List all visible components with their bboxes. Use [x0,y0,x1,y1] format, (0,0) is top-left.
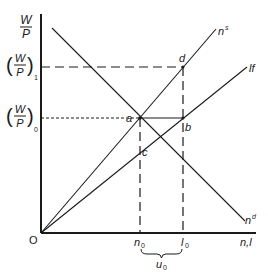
wage-1-label: ( W P ) 1 [6,52,38,81]
svg-text:): ) [27,54,34,76]
demand-curve-nd [52,28,245,221]
n0-tick-label: n 0 [134,236,145,249]
point-c-label: c [142,146,148,158]
point-b-label: b [185,121,191,133]
svg-text:d: d [252,213,257,220]
l0-tick-label: l 0 [181,236,189,249]
supply-curve-label: n s [218,24,229,37]
svg-text:n: n [218,25,224,37]
svg-text:W: W [15,52,27,64]
wage-0-label: ( W P ) 0 [6,103,38,133]
svg-text:P: P [22,27,30,41]
svg-text:W: W [15,103,27,115]
svg-text:0: 0 [185,242,189,249]
point-b-dot [182,117,185,120]
svg-text:P: P [16,66,24,78]
svg-text:(: ( [6,54,13,76]
point-d-label: d [179,52,186,64]
svg-text:0: 0 [141,242,145,249]
unemployment-brace [141,249,182,258]
point-a-label: a [126,112,132,124]
point-a-dot [138,116,142,120]
svg-text:(: ( [6,105,13,127]
svg-text:P: P [16,117,24,129]
x-axis-label: n,l [240,236,252,248]
point-d-dot [182,66,185,69]
svg-text:s: s [225,24,229,31]
svg-text:n: n [245,214,251,226]
svg-text:0: 0 [34,126,38,133]
svg-text:0: 0 [163,264,167,271]
svg-text:n: n [134,236,140,248]
brace-label: u 0 [156,258,167,271]
svg-text:W: W [20,13,33,27]
labor-market-diagram: W P ( W P ) 1 ( W P ) 0 O n s lf n d a b… [0,0,268,272]
y-axis-label: W P [20,13,33,41]
demand-curve-label: n d [245,213,257,226]
labor-force-curve-label: lf [249,62,255,74]
origin-label: O [29,234,38,246]
svg-text:1: 1 [34,74,38,81]
svg-text:): ) [27,105,34,127]
svg-text:u: u [156,258,162,270]
svg-text:l: l [181,236,184,248]
